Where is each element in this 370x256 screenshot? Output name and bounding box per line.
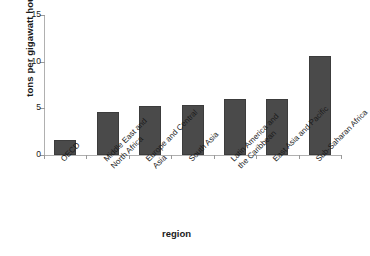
- x-tick-mark: [341, 155, 342, 159]
- y-tick-label: 10: [32, 56, 41, 67]
- y-tick-label: 0: [36, 149, 41, 160]
- x-axis-title: region: [0, 228, 353, 239]
- x-axis-category-labels: OECDMiddle East andNorth AfricaEurope an…: [44, 157, 341, 219]
- y-tick-label: 5: [36, 102, 41, 113]
- bar: [309, 56, 331, 155]
- y-tick-label: 15: [32, 9, 41, 20]
